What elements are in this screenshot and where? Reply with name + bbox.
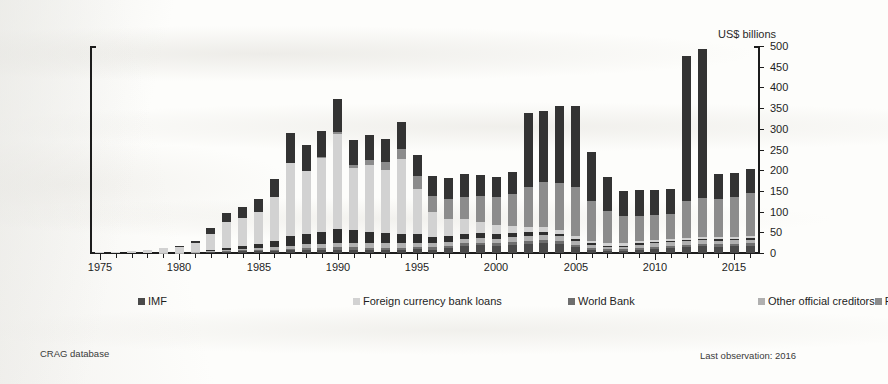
bar-column (746, 169, 755, 253)
bar-segment (286, 250, 295, 252)
bar-column (381, 139, 390, 253)
legend-item-label: Other official creditors (768, 294, 875, 308)
bar-segment (333, 99, 342, 132)
x-axis-tick (512, 254, 513, 258)
x-axis-tick-label: 2010 (643, 261, 667, 273)
legend-swatch-icon (353, 298, 360, 305)
bar-segment (286, 236, 295, 245)
legend-item-label: IMF (148, 294, 167, 308)
bar-segment (524, 187, 533, 227)
bar-segment (730, 173, 739, 197)
bar-column (714, 174, 723, 253)
x-axis-tick (433, 254, 434, 258)
bar-segment (222, 213, 231, 222)
bar-segment (428, 237, 437, 244)
y-axis-tick (759, 129, 764, 130)
bar-column (127, 251, 136, 253)
x-axis-tick (417, 254, 418, 260)
bar-segment (492, 197, 501, 225)
bar-column (587, 152, 596, 253)
x-axis-tick-label: 1995 (405, 261, 429, 273)
axis-cap (754, 46, 760, 48)
x-axis-tick-label: 1990 (326, 261, 350, 273)
bar-column (238, 207, 247, 253)
bar-segment (587, 201, 596, 240)
bar-segment (698, 246, 707, 253)
bar-segment (238, 251, 247, 253)
bar-segment (444, 219, 453, 236)
legend-item[interactable]: Other official creditors (758, 294, 875, 308)
bar-segment (270, 251, 279, 253)
bar-segment (508, 172, 517, 194)
x-axis-tick-label: 1980 (167, 261, 191, 273)
y-axis-tick (759, 108, 764, 109)
legend-item[interactable]: Foreign currency bonds (875, 294, 888, 308)
bar-segment (111, 252, 120, 253)
bar-segment (413, 234, 422, 242)
bar-segment (587, 250, 596, 253)
legend-swatch-icon (875, 298, 882, 305)
y-axis-tick (759, 191, 764, 192)
bar-segment (539, 111, 548, 182)
y-axis-tick (759, 253, 764, 254)
x-axis-tick (623, 254, 624, 258)
bar-segment (539, 243, 548, 253)
bar-segment (587, 152, 596, 201)
bar-segment (746, 169, 755, 193)
bar-column (603, 177, 612, 253)
bar-column (143, 250, 152, 253)
bar-segment (698, 198, 707, 237)
bar-column (317, 131, 326, 253)
x-axis-tick (385, 254, 386, 258)
legend-item[interactable]: World Bank (568, 294, 758, 308)
y-axis-tick-label: 500 (770, 40, 788, 52)
bar-segment (302, 171, 311, 233)
bar-segment (444, 178, 453, 199)
bar-segment (492, 225, 501, 234)
y-axis-tick-label: 350 (770, 102, 788, 114)
bar-segment (428, 212, 437, 237)
bar-segment (444, 199, 453, 219)
bar-segment (682, 201, 691, 237)
legend-item[interactable]: IMF (138, 294, 353, 308)
bar-segment (635, 216, 644, 242)
bar-segment (476, 196, 485, 222)
x-axis-tick (179, 254, 180, 260)
bar-segment (254, 199, 263, 212)
bar-segment (714, 247, 723, 253)
bar-segment (413, 155, 422, 177)
bar-segment (460, 197, 469, 220)
bar-segment (397, 149, 406, 159)
legend-item-label: World Bank (578, 294, 635, 308)
y-axis-tick-label: 0 (770, 247, 776, 259)
bar-segment (476, 222, 485, 234)
bar-segment (571, 187, 580, 236)
chart-legend: IMFForeign currency bank loansWorld Bank… (138, 294, 758, 308)
bar-segment (603, 177, 612, 211)
x-axis-tick (544, 254, 545, 258)
bar-segment (555, 106, 564, 184)
bar-column (349, 140, 358, 253)
x-axis-tick (370, 254, 371, 258)
x-axis-tick (687, 254, 688, 258)
legend-item[interactable]: Foreign currency bank loans (353, 294, 568, 308)
bar-segment (619, 216, 628, 243)
x-axis-tick (481, 254, 482, 258)
bar-segment (571, 247, 580, 253)
bar-column (159, 248, 168, 253)
bar-segment (317, 250, 326, 253)
bar-segment (555, 244, 564, 253)
bar-column (682, 56, 691, 253)
bar-segment (349, 140, 358, 165)
x-axis-tick (750, 254, 751, 258)
x-axis-tick (243, 254, 244, 258)
bar-segment (317, 131, 326, 157)
bar-segment (508, 194, 517, 225)
x-axis-tick (639, 254, 640, 258)
bar-segment (333, 250, 342, 253)
bar-column (650, 190, 659, 253)
y-axis-tick-label: 250 (770, 144, 788, 156)
bar-segment (381, 162, 390, 169)
bar-column (333, 99, 342, 253)
bar-segment (413, 189, 422, 235)
